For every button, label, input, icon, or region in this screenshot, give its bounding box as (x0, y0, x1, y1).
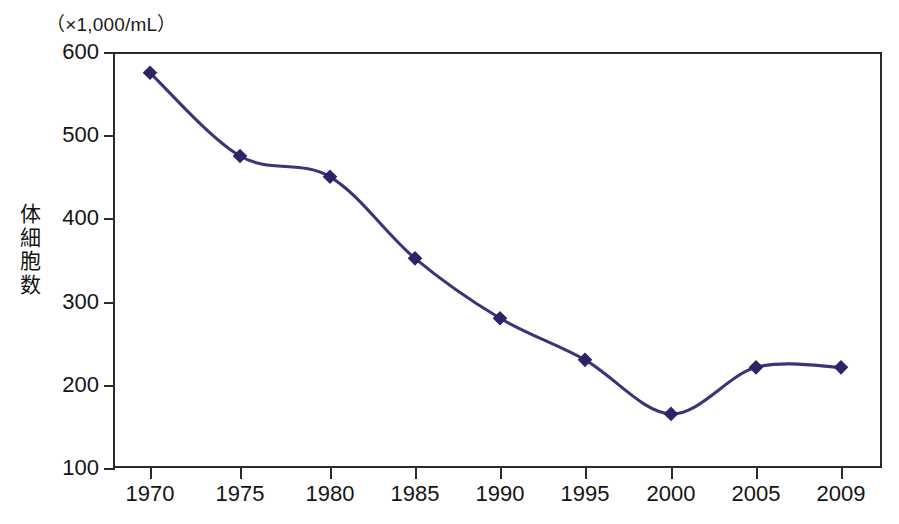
y-tick-label-500: 500 (41, 122, 99, 148)
x-tick-mark-1985 (415, 468, 417, 479)
y-axis-title-char-3: 胞 (17, 249, 43, 273)
x-tick-mark-1995 (585, 468, 587, 479)
y-tick-mark-300 (104, 302, 115, 304)
x-tick-mark-2009 (841, 468, 843, 479)
y-tick-mark-600 (104, 52, 115, 54)
x-tick-label-1995: 1995 (561, 481, 610, 507)
y-tick-mark-100 (104, 468, 115, 470)
x-tick-mark-1980 (330, 468, 332, 479)
x-tick-label-1970: 1970 (126, 481, 175, 507)
y-tick-label-400: 400 (41, 205, 99, 231)
y-tick-label-300: 300 (41, 289, 99, 315)
x-tick-mark-2005 (756, 468, 758, 479)
y-tick-label-100: 100 (41, 455, 99, 481)
y-tick-label-200: 200 (41, 372, 99, 398)
x-tick-mark-1990 (500, 468, 502, 479)
x-tick-label-1990: 1990 (476, 481, 525, 507)
x-tick-label-1980: 1980 (306, 481, 355, 507)
y-tick-mark-400 (104, 218, 115, 220)
x-tick-mark-1975 (240, 468, 242, 479)
x-tick-label-2005: 2005 (732, 481, 781, 507)
x-tick-mark-2000 (671, 468, 673, 479)
y-tick-label-600: 600 (41, 39, 99, 65)
x-axis-tick-labels: 1970 1975 1980 1985 1990 1995 2000 2005 … (0, 481, 899, 513)
y-tick-mark-200 (104, 385, 115, 387)
y-tick-mark-500 (104, 135, 115, 137)
x-tick-label-2009: 2009 (817, 481, 866, 507)
y-axis-title: 体 細 胞 数 (17, 202, 43, 296)
x-tick-label-2000: 2000 (647, 481, 696, 507)
y-axis-title-char-4: 数 (17, 273, 43, 297)
x-tick-label-1975: 1975 (216, 481, 265, 507)
x-tick-label-1985: 1985 (391, 481, 440, 507)
y-axis-tick-labels: 600 500 400 300 200 100 (41, 0, 99, 524)
x-tick-mark-1970 (150, 468, 152, 479)
y-axis-title-char-1: 体 (17, 202, 43, 226)
y-axis-title-char-2: 細 (17, 226, 43, 250)
plot-area (113, 52, 882, 468)
chart-figure: （×1,000/mL） 体 細 胞 数 600 500 400 300 200 … (0, 0, 899, 524)
